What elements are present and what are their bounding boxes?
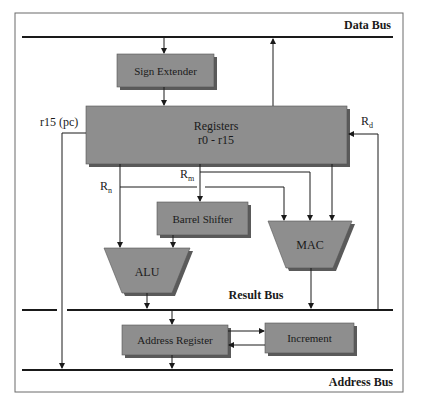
svg-text:Address Register: Address Register (137, 334, 213, 346)
resultbus-to-registers-rd-wire (349, 134, 378, 310)
alu-block: ALU (104, 248, 193, 296)
svg-text:r0 - r15: r0 - r15 (198, 133, 234, 147)
address-bus-label: Address Bus (329, 375, 393, 389)
svg-text:Registers: Registers (194, 119, 239, 133)
result-bus-label: Result Bus (228, 288, 283, 302)
rn-label: Rn (100, 179, 112, 195)
mac-block: MAC (268, 221, 355, 271)
svg-text:Increment: Increment (287, 332, 332, 344)
pc-to-addressbus-wire (62, 133, 86, 368)
arm-datapath-diagram: Data Bus Sign Extender Registers r0 - r1… (0, 0, 432, 406)
svg-text:ALU: ALU (135, 265, 160, 279)
pc-label: r15 (pc) (40, 115, 78, 129)
address-register-block: Address Register (122, 325, 231, 358)
svg-text:Barrel Shifter: Barrel Shifter (172, 213, 233, 225)
sign-extender-block: Sign Extender (117, 54, 217, 90)
svg-text:Sign Extender: Sign Extender (134, 65, 197, 77)
svg-text:MAC: MAC (296, 238, 323, 252)
rd-label: Rd (361, 114, 373, 130)
increment-block: Increment (265, 323, 357, 356)
rm-label: Rm (180, 167, 195, 183)
data-bus-label: Data Bus (344, 18, 391, 32)
registers-block: Registers r0 - r15 (86, 106, 350, 167)
barrel-shifter-block: Barrel Shifter (157, 202, 251, 238)
